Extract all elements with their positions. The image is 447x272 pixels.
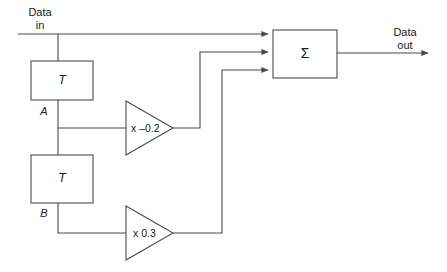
data-out-label-line2: out — [381, 39, 429, 52]
node-b-label: B — [34, 207, 54, 220]
data-out-label-line1: Data — [381, 26, 429, 39]
delay-block-1-label: T — [31, 73, 93, 87]
wire-gain-2-to-sum — [173, 70, 268, 233]
data-out-label: Data out — [381, 26, 429, 51]
wire-gain-1-to-sum — [173, 52, 268, 128]
data-in-label-line1: Data — [16, 6, 64, 19]
wire-delay-2-to-node-b — [58, 203, 126, 233]
data-in-label-line2: in — [16, 19, 64, 32]
node-a-label: A — [34, 105, 54, 118]
delay-block-2-label: T — [31, 171, 93, 185]
gain-block-1-label: x –0.2 — [131, 122, 175, 134]
data-in-label: Data in — [16, 6, 64, 31]
summing-block-label: Σ — [273, 45, 337, 61]
diagram-canvas — [0, 0, 447, 272]
block-diagram: Data in Data out T A T B x –0.2 x 0.3 Σ — [0, 0, 447, 272]
gain-block-2-label: x 0.3 — [133, 227, 173, 239]
